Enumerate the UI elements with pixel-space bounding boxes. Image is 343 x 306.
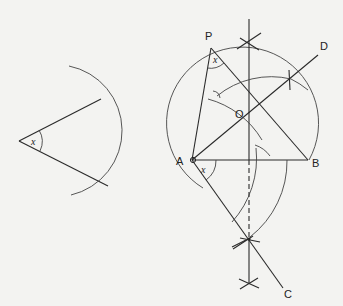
- given-angle-lower-arm: [19, 141, 108, 186]
- point-label-O: O: [235, 108, 244, 120]
- angle-label-P: x: [212, 54, 218, 65]
- arc-tick-left: [213, 91, 220, 98]
- point-label-C: C: [284, 288, 292, 300]
- point-label-P: P: [205, 30, 212, 42]
- given-angle-label: x: [30, 136, 36, 147]
- line-AD: [192, 55, 318, 160]
- arc-tick-lower: [232, 240, 246, 247]
- construction-arcs: [208, 70, 308, 247]
- given-angle-compass-arc: [69, 66, 122, 195]
- arc-tick-D: [289, 70, 290, 90]
- point-label-D: D: [320, 40, 328, 52]
- geometry-diagram: x x x: [0, 0, 343, 306]
- given-angle-upper-arm: [19, 99, 101, 141]
- line-PA: [192, 48, 211, 160]
- point-label-B: B: [312, 157, 319, 169]
- given-angle: x: [19, 66, 122, 195]
- given-angle-arc-mark: [39, 130, 42, 151]
- construction-figure: x x x: [0, 0, 343, 306]
- angle-mark-A: [206, 160, 216, 180]
- point-label-A: A: [176, 155, 184, 167]
- arc-tick-mid: [255, 145, 270, 156]
- line-AC: [192, 160, 283, 288]
- arc-lower-left: [232, 148, 257, 222]
- angle-label-A: x: [200, 164, 206, 175]
